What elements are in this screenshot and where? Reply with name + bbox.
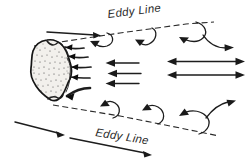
eddy-reverse-arrow-3 (106, 80, 140, 87)
eddy-line-label-bottom: Eddy Line (95, 126, 150, 146)
downstream-arrow-upper-head-left (167, 58, 177, 65)
downstream-arrow-lower-head-right (236, 71, 246, 78)
downstream-arrow-upper-head-right (236, 58, 246, 65)
eddy-diagram: Eddy Line Eddy Line (0, 0, 249, 164)
recirculation-hook-bottom-2 (142, 104, 164, 124)
downstream-arrow-group (167, 58, 245, 79)
recirculation-hook-top-group (90, 28, 156, 47)
main-current-arrow-lower-left-1 (15, 122, 65, 138)
large-recirculation-curve-top-outer-path (203, 35, 226, 48)
eddy-reverse-arrow-2 (108, 70, 142, 77)
large-recirculation-curve-bottom-inner-head (179, 109, 189, 116)
eddy-reverse-arrow-2-head (108, 70, 118, 77)
main-current-arrow-upper-left-shaft (47, 32, 95, 35)
main-current-arrow-lower-left-2-head (143, 151, 152, 158)
main-current-arrow-lower-left-1-shaft (15, 122, 58, 133)
rock-wake-arrow-4-head (71, 74, 78, 80)
rock-wake-arrow-3-head (71, 64, 78, 70)
lower-eddy-line (53, 105, 219, 136)
large-recirculation-curve-bottom-outer-head (227, 100, 237, 107)
eddy-reverse-arrow-1 (106, 59, 140, 66)
main-current-arrow-upper-left-head (93, 32, 101, 39)
downstream-arrow-lower (167, 71, 245, 78)
large-recirculation-curve-bottom-path (186, 111, 209, 134)
recirculation-hook-bottom-group (100, 100, 164, 124)
large-recirculation-curve-top (179, 22, 234, 51)
large-recirculation-curve-bottom-outer-path (206, 102, 228, 118)
recirculation-hook-bottom-2-head (142, 104, 152, 111)
large-recirculation-curve-bottom (179, 100, 236, 134)
large-recirculation-curve-top-path (186, 22, 206, 41)
eddy-reverse-arrow-1-head (106, 59, 116, 66)
rock-wake-arrow-5 (67, 88, 90, 96)
eddy-reverse-arrow-3-head (106, 80, 116, 87)
eddy-diagram-canvas: Eddy Line Eddy Line (0, 0, 249, 164)
downstream-arrow-upper (167, 58, 245, 65)
recirculation-hook-bottom-1 (100, 100, 119, 118)
large-recirculation-curve-top-outer-head (225, 44, 235, 51)
upper-eddy-line (34, 22, 214, 46)
downstream-arrow-lower-head-left (167, 71, 177, 78)
eddy-reverse-arrow-group (106, 59, 142, 87)
recirculation-hook-bottom-1-head (100, 100, 110, 107)
eddy-line-label-top: Eddy Line (107, 2, 162, 20)
main-current-arrow-lower-left-1-head (56, 131, 65, 138)
